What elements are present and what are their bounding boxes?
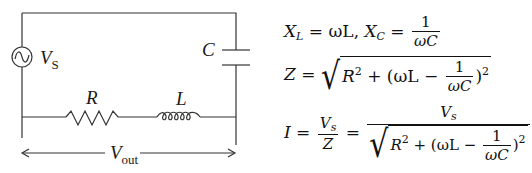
impedance-equation: Z = √R2 + (ωL − 1ωC)2 <box>284 56 491 95</box>
inductor-label: L <box>176 89 187 108</box>
inductor-icon <box>157 112 200 120</box>
source-label: VS <box>40 48 59 67</box>
capacitor-label: C <box>202 40 215 59</box>
reactance-equation: XL = ωL, XC = 1ωC <box>284 14 442 50</box>
current-fraction: Vs√R2 + (ωL − 1ωC)2 <box>367 104 529 164</box>
current-equation: I = VsZ = Vs√R2 + (ωL − 1ωC)2 <box>284 104 532 164</box>
vout-label: Vout <box>110 143 138 162</box>
resistor-icon <box>66 111 157 125</box>
square-root: √R2 + (ωL − 1ωC)2 <box>321 56 491 95</box>
resistor-label: R <box>86 88 98 107</box>
fraction: 1ωC <box>412 14 440 50</box>
sine-wave-icon <box>15 52 29 62</box>
